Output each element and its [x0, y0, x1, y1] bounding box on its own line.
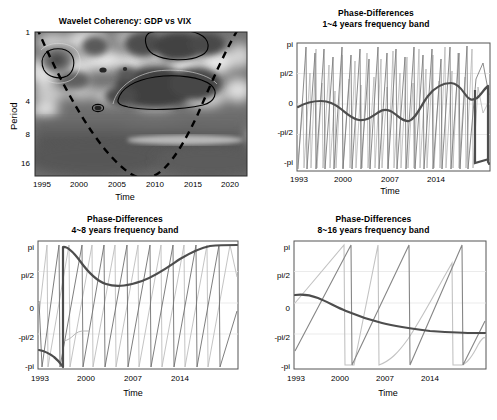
phase14-xtick-2000: 2000	[325, 175, 361, 184]
wavelet-ytick-16: 16	[6, 159, 30, 168]
phase816-ytick-pi: pi	[264, 243, 290, 252]
phase48-xtick-2007: 2007	[115, 374, 151, 383]
phase816-xtick-2014: 2014	[412, 374, 448, 383]
phase14-plot-area	[297, 43, 490, 171]
phase14-ytick-pi-2: pi/2	[261, 69, 293, 78]
wavelet-heatmap	[35, 32, 247, 176]
phase14-ytick-neg-pi-2: -pi/2	[257, 128, 293, 137]
panel-wavelet-coherency: Wavelet Coherency: GDP vs VIX Period 1 4…	[0, 12, 250, 202]
wavelet-ytick-8: 8	[8, 130, 30, 139]
phase48-xlabel: Time	[103, 388, 163, 398]
wavelet-xtick-2000: 2000	[59, 180, 99, 189]
phase14-xtick-2007: 2007	[372, 175, 408, 184]
wavelet-xtick-2015: 2015	[173, 180, 213, 189]
phase14-ytick-0: 0	[265, 99, 293, 108]
wavelet-title: Wavelet Coherency: GDP vs VIX	[0, 16, 250, 27]
phase14-xlabel: Time	[360, 186, 420, 196]
wavelet-xlabel: Time	[95, 192, 155, 202]
phase816-xtick-1993: 1993	[278, 374, 314, 383]
phase14-ytick-neg-pi: -pi	[261, 158, 293, 167]
phase48-xtick-2014: 2014	[162, 374, 198, 383]
phase816-subtitle: 8~16 years frequency band	[250, 225, 497, 236]
panel-phase-4-8: Phase-Differences 4~8 years frequency ba…	[0, 208, 250, 420]
phase14-title: Phase-Differences	[255, 8, 497, 19]
phase14-xtick-1993: 1993	[281, 175, 317, 184]
phase816-ytick-neg-pi: -pi	[259, 362, 290, 371]
wavelet-xtick-1995: 1995	[22, 180, 62, 189]
phase48-ytick-pi: pi	[8, 243, 34, 252]
phase48-ytick-pi-2: pi/2	[3, 271, 34, 280]
figure-canvas: Wavelet Coherency: GDP vs VIX Period 1 4…	[0, 0, 497, 420]
phase48-subtitle: 4~8 years frequency band	[0, 225, 250, 236]
phase48-title: Phase-Differences	[0, 214, 250, 225]
phase48-xtick-2000: 2000	[68, 374, 104, 383]
phase816-xtick-2007: 2007	[367, 374, 403, 383]
phase48-ytick-neg-pi-2: -pi/2	[0, 333, 34, 342]
panel-phase-1-4: Phase-Differences 1~4 years frequency ba…	[255, 0, 497, 200]
phase816-title: Phase-Differences	[250, 214, 497, 225]
phase816-ytick-neg-pi-2: -pi/2	[255, 333, 290, 342]
phase14-subtitle: 1~4 years frequency band	[255, 19, 497, 30]
phase816-plot-area	[294, 241, 486, 369]
wavelet-xtick-2020: 2020	[210, 180, 250, 189]
phase48-ytick-0: 0	[8, 304, 34, 313]
wavelet-ytick-1: 1	[8, 28, 30, 37]
wavelet-xtick-2010: 2010	[135, 180, 175, 189]
phase48-plot-area	[38, 241, 238, 369]
phase48-xtick-1993: 1993	[22, 374, 58, 383]
wavelet-xtick-2005: 2005	[97, 180, 137, 189]
phase14-ytick-pi: pi	[265, 40, 293, 49]
wavelet-ylabel: Period	[8, 103, 19, 130]
phase14-xtick-2014: 2014	[418, 175, 454, 184]
panel-phase-8-16: Phase-Differences 8~16 years frequency b…	[250, 208, 497, 420]
phase816-ytick-pi-2: pi/2	[259, 271, 290, 280]
phase816-ytick-0: 0	[264, 304, 290, 313]
phase816-xlabel: Time	[358, 388, 418, 398]
phase816-xtick-2000: 2000	[322, 374, 358, 383]
wavelet-ytick-4: 4	[8, 97, 30, 106]
phase48-ytick-neg-pi: -pi	[3, 362, 34, 371]
